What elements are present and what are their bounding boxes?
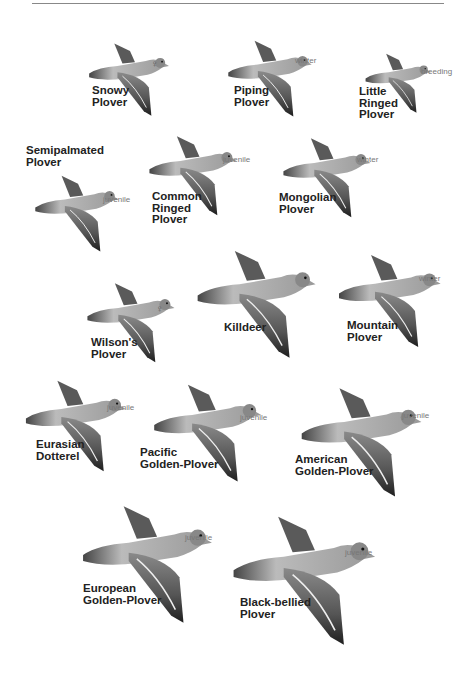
species-label: European Golden-Plover	[83, 583, 162, 606]
species-label: Wilson's Plover	[91, 337, 138, 360]
plumage-tag: breeding	[421, 67, 452, 76]
bird-illustration-mongolian	[280, 120, 376, 232]
bird-illustration-semipalmated	[32, 160, 124, 264]
plumage-tag: winter	[419, 274, 440, 283]
plumage-tag: winter	[357, 155, 378, 164]
species-label: Eurasian Dotterel	[36, 439, 85, 462]
bird-illustration-snowy	[86, 30, 174, 126]
plumage-tag: juvenile	[103, 195, 130, 204]
bird-illustration-eurasian-dotterel	[22, 360, 132, 488]
plumage-tag: winter	[295, 56, 316, 65]
plumage-tag: juvenile	[185, 533, 212, 542]
top-rule	[32, 3, 444, 4]
species-label: American Golden-Plover	[295, 454, 374, 477]
plumage-tag: juvenile	[402, 411, 429, 420]
species-label: Pacific Golden-Plover	[140, 447, 219, 470]
species-label: Common Ringed Plover	[152, 191, 202, 226]
plumage-tag: juvenile	[223, 155, 250, 164]
plumage-tag: juvenile	[345, 548, 372, 557]
bird-illustration-pacific-golden	[150, 366, 268, 496]
species-label: Killdeer	[224, 322, 266, 334]
species-label: Little Ringed Plover	[359, 86, 398, 121]
species-label: Black-bellied Plover	[240, 597, 311, 620]
female-symbol: ♀	[156, 303, 164, 314]
bird-illustration-piping	[225, 24, 317, 130]
bird-illustration-black-bellied	[228, 490, 384, 666]
bird-illustration-killdeer	[193, 234, 323, 370]
plumage-tag: juvenile	[240, 413, 267, 422]
species-label: Piping Plover	[234, 85, 269, 108]
species-label: Snowy Plover	[92, 85, 129, 108]
bird-illustration-european-golden	[78, 484, 220, 640]
female-symbol: ♀	[151, 58, 159, 69]
bird-illustration-mountain	[335, 234, 447, 364]
species-label: Mountain Plover	[347, 320, 398, 343]
species-label: Mongolian Plover	[279, 192, 337, 215]
plumage-tag: juvenile	[107, 403, 134, 412]
